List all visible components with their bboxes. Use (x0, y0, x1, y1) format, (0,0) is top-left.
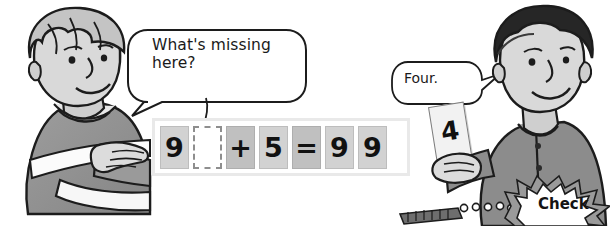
equation-tile[interactable]: = (292, 126, 321, 169)
equation-tile[interactable]: 9 (160, 126, 189, 169)
check-label: Check (538, 195, 589, 213)
equation-tile[interactable]: 9 (325, 126, 354, 169)
equation-tile[interactable]: 9 (358, 126, 387, 169)
equation-tile[interactable]: + (226, 126, 255, 169)
speech-bubble-left-text: What's missing here? (152, 36, 271, 73)
speech-bubble-right-text: Four. (404, 70, 438, 87)
equation-tile[interactable]: 5 (259, 126, 288, 169)
equation-frame: 9 + 5 = 9 9 (152, 118, 410, 176)
worksheet-scene: What's missing here? 9 + 5 = 9 9 Four. 4 (0, 0, 610, 226)
equation-blank-tile[interactable] (193, 126, 222, 169)
